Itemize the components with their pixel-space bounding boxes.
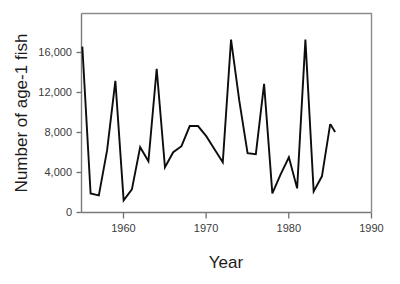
y-axis-title: Number of age-1 fish bbox=[12, 34, 31, 193]
line-chart: 16,000 12,000 8,000 4,000 0 1960 1970 19… bbox=[0, 0, 400, 284]
y-tick-label-12000: 12,000 bbox=[38, 86, 72, 98]
y-tick-label-0: 0 bbox=[66, 206, 72, 218]
x-axis-ticks bbox=[124, 213, 372, 219]
x-axis-title: Year bbox=[209, 253, 244, 272]
y-tick-label-8000: 8,000 bbox=[44, 126, 72, 138]
chart-figure: 16,000 12,000 8,000 4,000 0 1960 1970 19… bbox=[0, 0, 400, 284]
x-tick-label-1970: 1970 bbox=[194, 222, 218, 234]
y-tick-label-4000: 4,000 bbox=[44, 166, 72, 178]
y-axis-ticks bbox=[77, 53, 82, 213]
x-tick-label-1960: 1960 bbox=[111, 222, 135, 234]
data-line-stub-segment bbox=[330, 124, 335, 132]
x-tick-label-1990: 1990 bbox=[359, 222, 383, 234]
x-tick-label-1980: 1980 bbox=[277, 222, 301, 234]
data-line-series bbox=[82, 40, 330, 201]
y-tick-label-16000: 16,000 bbox=[38, 46, 72, 58]
